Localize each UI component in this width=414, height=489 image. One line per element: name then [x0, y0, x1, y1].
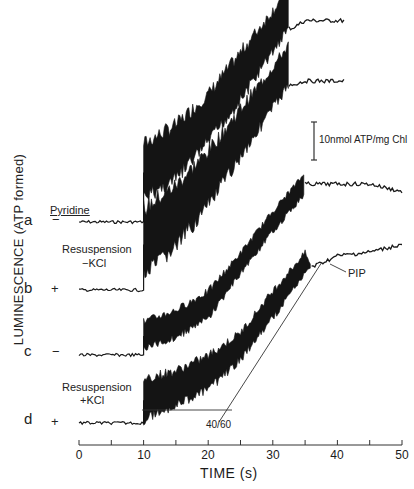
- trace-d-plateau: [312, 244, 402, 267]
- trace-label-d: d: [24, 410, 32, 427]
- x-tick-label: 40: [330, 448, 343, 462]
- kcl-plus-label: +KCl: [80, 394, 104, 406]
- trace-sign-d: +: [51, 414, 59, 429]
- trace-group: [79, 0, 402, 425]
- x-axis: [79, 440, 402, 445]
- x-tick-label: 0: [76, 448, 83, 462]
- trace-c-plateau: [305, 182, 402, 193]
- y-axis-label: LUMINESCENCE (ATP formed): [11, 120, 26, 380]
- x-tick-label: 10: [137, 448, 150, 462]
- kcl-minus-label: −KCl: [82, 257, 106, 269]
- trace-a-plateau: [289, 19, 344, 30]
- x-tick-label: 50: [395, 448, 408, 462]
- ratio-annotation: 40/60: [206, 419, 231, 430]
- trace-label-a: a: [24, 211, 32, 228]
- trace-sign-a: −: [52, 212, 60, 227]
- trace-c-baseline: [79, 336, 144, 356]
- resuspension-plus-label: Resuspension: [62, 381, 132, 393]
- resuspension-minus-label: Resuspension: [62, 243, 132, 255]
- x-tick-label: 30: [266, 448, 279, 462]
- x-tick-label: 20: [201, 448, 214, 462]
- pip-pointer: [330, 264, 346, 272]
- trace-label-c: c: [24, 342, 32, 359]
- x-axis-title: TIME (s): [200, 465, 258, 481]
- pip-annotation: PIP: [348, 267, 366, 279]
- trace-sign-b: +: [51, 281, 59, 296]
- scale-bar-label: 10nmol ATP/mg Chl: [319, 134, 407, 145]
- trace-sign-c: −: [52, 344, 60, 359]
- trace-b-plateau: [289, 79, 344, 86]
- trace-label-b: b: [24, 279, 32, 296]
